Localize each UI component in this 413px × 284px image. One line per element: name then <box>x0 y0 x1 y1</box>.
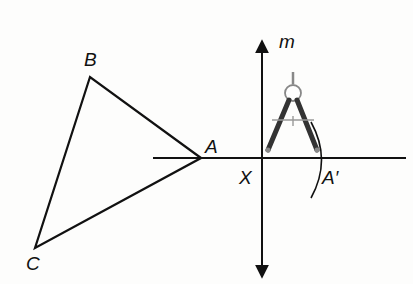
label-b: B <box>84 50 97 69</box>
compass-icon <box>266 72 320 153</box>
label-a: A <box>205 137 218 156</box>
label-a-prime: A′ <box>322 168 338 187</box>
label-x: X <box>239 168 252 187</box>
label-c: C <box>26 254 40 273</box>
triangle-abc <box>35 77 201 248</box>
label-m: m <box>279 32 295 51</box>
reflection-diagram: B A C X A′ m <box>0 0 413 284</box>
